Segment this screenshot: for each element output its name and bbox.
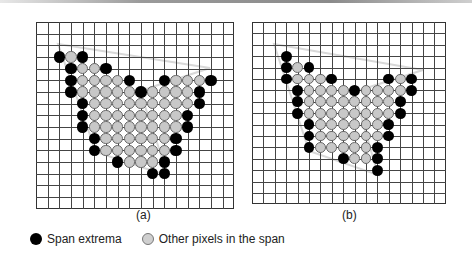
span-extrema-pixel [281, 74, 292, 85]
grid-line [252, 182, 446, 183]
span-extrema-pixel [170, 145, 181, 156]
span-extrema-pixel [194, 86, 205, 97]
span-extrema-pixel [205, 75, 216, 86]
span-pixel [89, 86, 100, 97]
span-pixel [135, 121, 146, 132]
span-pixel [338, 119, 349, 130]
span-pixel [124, 145, 135, 156]
span-pixel [135, 145, 146, 156]
span-extrema-pixel [54, 51, 65, 62]
legend-item-extrema: Span extrema [30, 232, 122, 246]
black-circle-icon [30, 233, 42, 245]
span-pixel [124, 86, 135, 97]
span-extrema-pixel [281, 62, 292, 73]
span-pixel [349, 142, 360, 153]
span-pixel [383, 108, 394, 119]
span-pixel [315, 131, 326, 142]
grid-line [36, 34, 234, 35]
span-pixel [338, 131, 349, 142]
span-pixel [159, 110, 170, 121]
span-pixel [124, 156, 135, 167]
span-extrema-pixel [395, 108, 406, 119]
span-extrema-pixel [304, 142, 315, 153]
span-extrema-pixel [65, 86, 76, 97]
span-pixel [315, 119, 326, 130]
span-pixel [304, 85, 315, 96]
legend-other-label: Other pixels in the span [159, 232, 285, 246]
span-pixel [89, 110, 100, 121]
grid-line [36, 174, 234, 175]
grid-line [36, 197, 234, 198]
span-pixel [361, 108, 372, 119]
span-pixel [65, 51, 76, 62]
legend-item-other: Other pixels in the span [142, 232, 285, 246]
span-extrema-pixel [281, 51, 292, 62]
span-extrema-pixel [372, 165, 383, 176]
span-pixel [135, 110, 146, 121]
grid-line [36, 45, 234, 46]
span-pixel [372, 108, 383, 119]
span-pixel [147, 86, 158, 97]
span-pixel [170, 121, 181, 132]
span-pixel [112, 86, 123, 97]
span-pixel [100, 110, 111, 121]
span-pixel [89, 75, 100, 86]
span-extrema-pixel [349, 85, 360, 96]
span-extrema-pixel [65, 75, 76, 86]
span-pixel [372, 85, 383, 96]
span-extrema-pixel [135, 86, 146, 97]
span-pixel [372, 131, 383, 142]
span-extrema-pixel [372, 153, 383, 164]
span-pixel [326, 142, 337, 153]
span-extrema-pixel [159, 75, 170, 86]
legend: Span extrema Other pixels in the span [30, 231, 305, 247]
span-extrema-pixel [170, 133, 181, 144]
span-extrema-pixel [372, 142, 383, 153]
span-extrema-pixel [406, 85, 417, 96]
span-pixel [315, 96, 326, 107]
span-pixel [326, 85, 337, 96]
span-pixel [372, 96, 383, 107]
span-extrema-pixel [182, 121, 193, 132]
span-extrema-pixel [77, 51, 88, 62]
span-pixel [100, 145, 111, 156]
grid-line [252, 170, 446, 171]
span-pixel [159, 86, 170, 97]
span-pixel [338, 142, 349, 153]
span-pixel [315, 108, 326, 119]
span-pixel [338, 85, 349, 96]
panel-b-label: (b) [342, 208, 357, 222]
span-pixel [170, 98, 181, 109]
span-pixel [124, 110, 135, 121]
span-pixel [315, 85, 326, 96]
span-pixel [326, 108, 337, 119]
grid-line [252, 193, 446, 194]
span-pixel [372, 119, 383, 130]
span-pixel [170, 86, 181, 97]
span-pixel [100, 86, 111, 97]
span-pixel [147, 156, 158, 167]
span-pixel [361, 85, 372, 96]
span-pixel [383, 85, 394, 96]
legend-extrema-label: Span extrema [47, 232, 122, 246]
span-pixel [170, 110, 181, 121]
span-pixel [292, 62, 303, 73]
span-extrema-pixel [395, 96, 406, 107]
span-pixel [361, 142, 372, 153]
span-pixel [315, 142, 326, 153]
gray-circle-icon [142, 233, 154, 245]
span-extrema-pixel [292, 85, 303, 96]
grid-line [252, 45, 446, 46]
span-pixel [159, 121, 170, 132]
span-pixel [112, 121, 123, 132]
span-pixel [338, 108, 349, 119]
span-pixel [159, 145, 170, 156]
span-pixel [77, 86, 88, 97]
top-divider [0, 0, 472, 3]
span-pixel [395, 74, 406, 85]
span-pixel [135, 98, 146, 109]
span-pixel [100, 98, 111, 109]
span-pixel [135, 156, 146, 167]
span-pixel [135, 133, 146, 144]
span-pixel [182, 86, 193, 97]
